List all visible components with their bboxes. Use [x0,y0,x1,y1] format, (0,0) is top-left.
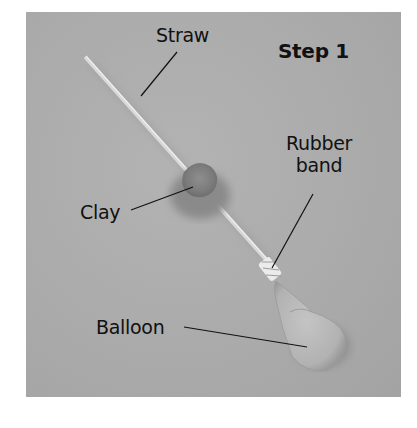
apparatus-illustration [0,0,417,428]
rubber-band-label-line1: Rubber [276,132,362,154]
clay-label: Clay [80,201,120,223]
balloon-label: Balloon [96,316,164,338]
balloon [275,281,351,371]
rubber-band-leader-line [272,194,313,268]
straw-label: Straw [156,24,209,46]
straw [85,56,269,262]
rubber-band-label-line2: band [276,154,362,176]
rubber-band [258,256,283,282]
straw-leader-line [141,52,177,96]
step-title: Step 1 [278,40,349,62]
rubber-band-label: Rubber band [276,132,362,176]
